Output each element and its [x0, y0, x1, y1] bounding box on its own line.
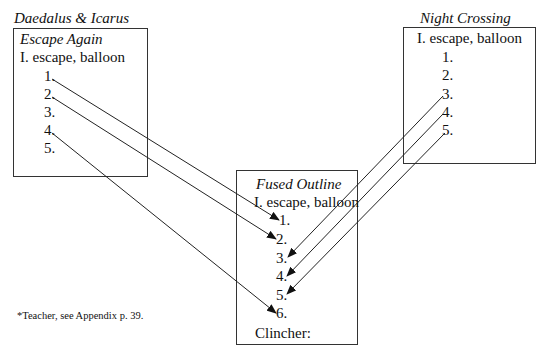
arrow-left2-to-fused2 — [52, 97, 276, 239]
arrow-left1-to-fused1 — [52, 79, 279, 220]
arrow-right5-to-fused5 — [287, 133, 445, 294]
connector-arrows — [0, 0, 547, 357]
arrow-right3-to-fused3 — [288, 96, 443, 257]
arrow-left4-to-fused6 — [52, 133, 276, 313]
arrow-right4-to-fused4 — [287, 114, 443, 276]
